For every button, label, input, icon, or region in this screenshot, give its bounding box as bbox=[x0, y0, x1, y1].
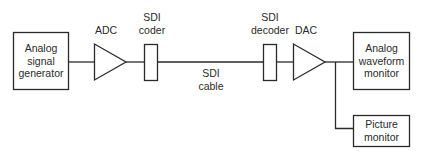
label-line: Picture bbox=[353, 118, 410, 131]
picture-monitor-label: Picture monitor bbox=[353, 118, 410, 143]
label-line: generator bbox=[13, 67, 69, 80]
label-line: monitor bbox=[353, 131, 410, 144]
dac-label: DAC bbox=[288, 24, 324, 37]
connector-dac-picture bbox=[336, 62, 354, 129]
analog-waveform-monitor-label: Analog waveform monitor bbox=[353, 42, 410, 80]
label-line: SDI bbox=[245, 11, 295, 24]
label-line: cable bbox=[191, 80, 231, 93]
sdi-cable-label: SDI cable bbox=[191, 67, 231, 92]
label-line: waveform bbox=[353, 55, 410, 68]
adc-label: ADC bbox=[88, 24, 124, 37]
analog-signal-generator-label: Analog signal generator bbox=[13, 42, 69, 80]
label-line: signal bbox=[13, 55, 69, 68]
adc-triangle bbox=[95, 44, 127, 80]
label-line: Analog bbox=[13, 42, 69, 55]
sdi-decoder-rect bbox=[264, 45, 277, 81]
sdi-coder-label: SDI coder bbox=[132, 11, 172, 36]
label-line: Analog bbox=[353, 42, 410, 55]
dac-triangle bbox=[294, 44, 326, 80]
label-line: monitor bbox=[353, 67, 410, 80]
sdi-coder-rect bbox=[145, 45, 158, 81]
label-line: SDI bbox=[132, 11, 172, 24]
label-line: SDI bbox=[191, 67, 231, 80]
label-line: coder bbox=[132, 24, 172, 37]
